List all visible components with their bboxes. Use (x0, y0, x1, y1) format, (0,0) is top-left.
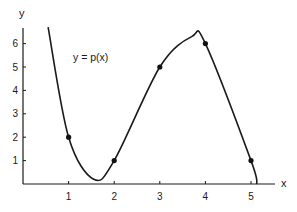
x-tick-label: 4 (203, 191, 209, 202)
x-axis-label: x (281, 177, 287, 189)
y-tick-label: 2 (12, 132, 18, 143)
data-point (66, 135, 71, 140)
x-tick-label: 2 (111, 191, 117, 202)
y-ticks: 123456 (12, 38, 26, 166)
x-tick-label: 3 (157, 191, 163, 202)
y-axis-label: y (19, 7, 25, 19)
y-tick-label: 4 (12, 85, 18, 96)
y-tick-label: 1 (12, 155, 18, 166)
polynomial-chart: 12345 123456 x y y = p(x) (0, 0, 297, 212)
curve-annotation: y = p(x) (73, 51, 108, 63)
data-point (112, 158, 117, 163)
y-tick-label: 3 (12, 108, 18, 119)
axes (23, 28, 275, 184)
y-tick-label: 6 (12, 38, 18, 49)
data-point (157, 64, 162, 69)
x-tick-label: 1 (66, 191, 72, 202)
y-tick-label: 5 (12, 62, 18, 73)
data-point (203, 41, 208, 46)
x-tick-label: 5 (248, 191, 254, 202)
data-point (248, 158, 253, 163)
